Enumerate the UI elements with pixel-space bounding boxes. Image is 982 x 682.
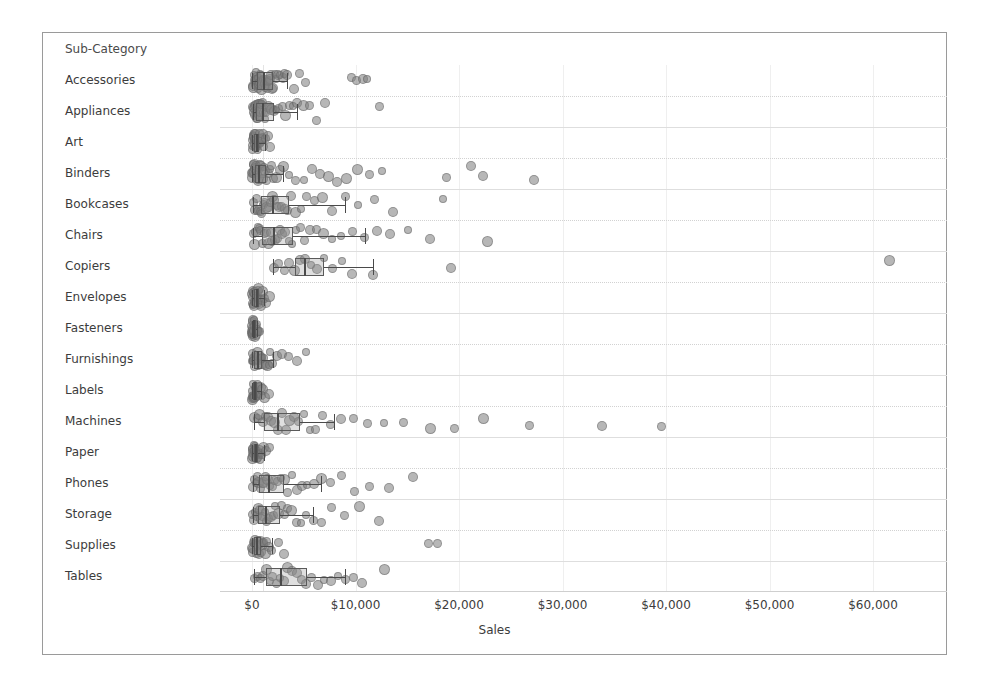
data-point[interactable]: [370, 195, 379, 204]
data-point[interactable]: [264, 389, 274, 399]
box[interactable]: [266, 568, 306, 586]
data-point[interactable]: [289, 84, 299, 94]
data-point[interactable]: [348, 227, 357, 236]
data-point[interactable]: [300, 176, 308, 184]
data-point[interactable]: [529, 175, 539, 185]
cap-high: [321, 476, 322, 492]
data-point[interactable]: [399, 418, 408, 427]
data-point[interactable]: [357, 578, 367, 588]
data-point[interactable]: [341, 173, 352, 184]
data-point[interactable]: [425, 234, 435, 244]
data-point[interactable]: [482, 236, 493, 247]
data-point[interactable]: [884, 255, 895, 266]
data-point[interactable]: [378, 167, 386, 175]
data-point[interactable]: [328, 264, 337, 273]
data-point[interactable]: [297, 519, 305, 527]
x-gridline: [356, 65, 357, 591]
whisker-high: [266, 174, 283, 175]
data-point[interactable]: [354, 501, 365, 512]
data-point[interactable]: [274, 538, 283, 547]
data-point[interactable]: [300, 236, 309, 245]
box[interactable]: [256, 103, 273, 121]
data-point[interactable]: [295, 69, 304, 78]
data-point[interactable]: [597, 421, 607, 431]
data-point[interactable]: [404, 226, 412, 234]
data-point[interactable]: [354, 201, 362, 209]
data-point[interactable]: [302, 348, 310, 356]
cap-high: [283, 166, 284, 182]
data-point[interactable]: [466, 161, 476, 171]
data-point[interactable]: [363, 75, 371, 83]
row-divider: [220, 530, 947, 531]
cap-high: [265, 135, 266, 151]
data-point[interactable]: [352, 164, 363, 175]
median-line: [254, 382, 256, 400]
data-point[interactable]: [350, 487, 359, 496]
data-point[interactable]: [388, 207, 398, 217]
data-point[interactable]: [478, 171, 488, 181]
data-point[interactable]: [380, 419, 388, 427]
data-point[interactable]: [374, 516, 384, 526]
data-point[interactable]: [375, 102, 384, 111]
data-point[interactable]: [317, 192, 328, 203]
data-point[interactable]: [263, 131, 273, 141]
box[interactable]: [262, 227, 294, 245]
data-point[interactable]: [305, 101, 314, 110]
x-gridline: [666, 65, 667, 591]
box[interactable]: [261, 196, 289, 214]
x-gridline: [770, 65, 771, 591]
x-tick-label: $10,000: [331, 598, 381, 612]
data-point[interactable]: [365, 170, 374, 179]
data-point[interactable]: [300, 410, 308, 418]
box[interactable]: [255, 165, 267, 183]
cap-high: [365, 228, 366, 244]
data-point[interactable]: [439, 195, 447, 203]
data-point[interactable]: [442, 173, 451, 182]
data-point[interactable]: [265, 142, 275, 152]
data-point[interactable]: [279, 549, 289, 559]
data-point[interactable]: [327, 206, 337, 216]
data-point[interactable]: [384, 483, 394, 493]
cap-high: [373, 259, 374, 275]
data-point[interactable]: [311, 425, 320, 434]
data-point[interactable]: [338, 257, 346, 265]
data-point[interactable]: [657, 422, 666, 431]
data-point[interactable]: [291, 176, 300, 185]
data-point[interactable]: [297, 205, 305, 213]
data-point[interactable]: [317, 518, 326, 527]
data-point[interactable]: [408, 472, 418, 482]
box[interactable]: [264, 413, 299, 431]
data-point[interactable]: [363, 419, 372, 428]
data-point[interactable]: [265, 443, 274, 452]
data-point[interactable]: [349, 414, 358, 423]
whisker-high: [273, 81, 287, 82]
data-point[interactable]: [385, 229, 395, 239]
data-point[interactable]: [379, 564, 390, 575]
data-point[interactable]: [318, 411, 327, 420]
data-point[interactable]: [312, 116, 321, 125]
data-point[interactable]: [425, 423, 436, 434]
cap-low: [273, 259, 274, 275]
data-point[interactable]: [296, 223, 305, 232]
whisker-high: [280, 515, 313, 516]
data-point[interactable]: [365, 482, 374, 491]
data-point[interactable]: [446, 263, 456, 273]
data-point[interactable]: [525, 421, 534, 430]
data-point[interactable]: [340, 511, 349, 520]
data-point[interactable]: [337, 471, 346, 480]
data-point[interactable]: [301, 78, 310, 87]
data-point[interactable]: [336, 414, 346, 424]
data-point[interactable]: [292, 356, 302, 366]
data-point[interactable]: [320, 98, 330, 108]
data-point[interactable]: [450, 424, 459, 433]
data-point[interactable]: [327, 503, 336, 512]
data-point[interactable]: [372, 226, 382, 236]
box[interactable]: [258, 506, 280, 524]
data-point[interactable]: [478, 413, 489, 424]
data-point[interactable]: [433, 539, 442, 548]
box[interactable]: [295, 258, 324, 276]
data-point[interactable]: [326, 478, 335, 487]
data-point[interactable]: [288, 471, 296, 479]
x-gridline: [563, 65, 564, 591]
box[interactable]: [259, 475, 284, 493]
